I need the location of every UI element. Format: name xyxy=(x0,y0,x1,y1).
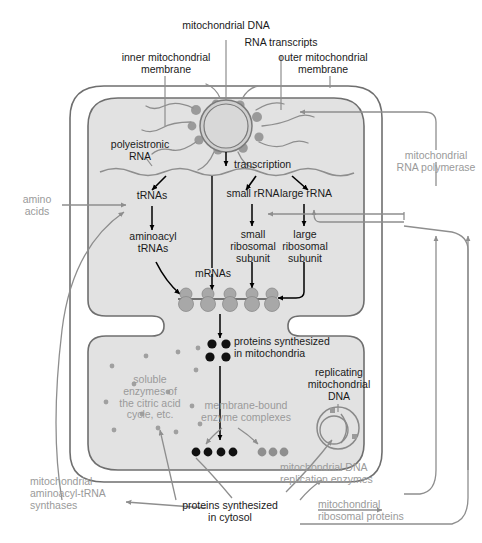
label-polyeistronic-rna: polyeistronic RNA xyxy=(97,139,183,163)
label-proteins-synthesized-in-cytosol: proteins synthesized in cytosol xyxy=(168,500,292,524)
label-replicating-mitochondrial-dna: replicating mitochondrial DNA xyxy=(296,367,382,402)
label-large-rrna: large rRNA xyxy=(272,188,340,200)
label-membrane-bound-enzyme-complexes: membrane-bound enzyme complexes xyxy=(196,400,296,424)
label-soluble-enzymes: soluble enzymes of the citric acid cycle… xyxy=(106,374,194,421)
label-mitochondrial-ribosomal-proteins: mitochondrial ribosomal proteins xyxy=(318,499,424,523)
return-inner-foot xyxy=(404,470,436,494)
label-proteins-synthesized-in-mitochondria: proteins synthesized in mitochondria xyxy=(234,336,356,360)
label-trnas: tRNAs xyxy=(124,190,180,202)
label-mrnas: mRNAs xyxy=(184,268,242,280)
label-transcription: transcription xyxy=(234,159,322,171)
label-inner-mitochondrial-membrane: inner mitochondrial membrane xyxy=(98,52,234,76)
label-mitochondrial-rna-polymerase: mitochondrial RNA polymerase xyxy=(392,150,480,174)
label-outer-mitochondrial-membrane: outer mitochondrial membrane xyxy=(254,52,392,76)
label-mitochondrial-dna-replication-enzymes: mitochondrial DNA replication enzymes xyxy=(280,462,396,486)
diagram-canvas: inner mitochondrial membrane mitochondri… xyxy=(0,0,482,543)
label-mitochondrial-aminoacyl-trna-synthases: mitochondrial aminoacyl-tRNA synthases xyxy=(30,476,126,511)
label-aminoacyl-trnas: aminoacyl tRNAs xyxy=(112,231,194,255)
label-amino-acids: amino acids xyxy=(10,194,64,218)
label-mitochondrial-dna: mitochondrial DNA xyxy=(156,20,296,32)
label-large-ribosomal-subunit: large ribosomal subunit xyxy=(274,229,336,264)
label-rna-transcripts: RNA transcripts xyxy=(218,37,344,49)
